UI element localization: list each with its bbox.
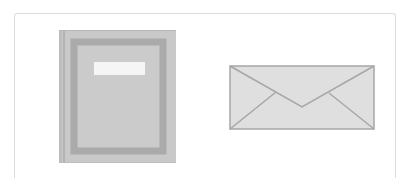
envelope-icon[interactable] (229, 65, 375, 130)
book-icon[interactable] (59, 30, 176, 163)
